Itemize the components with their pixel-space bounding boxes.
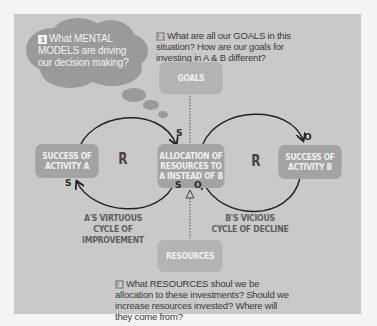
polarity-a-to-alloc: S [176,128,182,138]
polarity-bottom-right: O [194,180,202,190]
left-loop-label: A'S VIRTUOUS CYCLE OF IMPROVEMENT [74,213,151,246]
success-b-box: SUCCESS OF ACTIVITY B [278,145,341,179]
reinforcing-loop-right: R [251,152,260,170]
success-a-box: SUCCESS OF ACTIVITY A [35,144,98,178]
question-3: 3What RESOURCES shoul we be allocation t… [115,278,295,322]
number-badge-3: 3 [115,280,124,289]
allocation-box: ALLOCATION OF RESOURCES TO A INSTEAD OF … [158,144,225,188]
goals-box: GOALS [159,62,222,94]
right-loop-label: B'S VICIOUS CYCLE OF DECLINE [211,213,288,235]
polarity-bottom-left: S [175,180,181,190]
resources-box: RESOURCES [157,240,222,272]
polarity-alloc-to-a: S [65,178,71,188]
reinforcing-loop-left: R [118,150,127,168]
polarity-alloc-to-b: O [304,132,312,142]
